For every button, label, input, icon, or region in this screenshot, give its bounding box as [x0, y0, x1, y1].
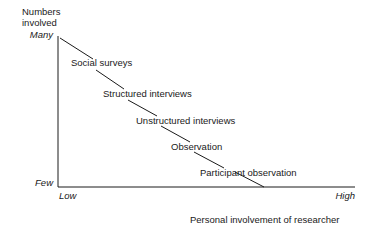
research-methods-continuum-diagram: Numbers involved Many Few Low High Perso… — [0, 0, 368, 228]
method-label-social-surveys: Social surveys — [71, 57, 132, 68]
trend-segment-3 — [128, 100, 157, 116]
method-label-observation: Observation — [171, 141, 222, 152]
plot-area — [0, 0, 368, 228]
method-label-structured-interviews: Structured interviews — [103, 88, 192, 99]
trend-segment-2 — [96, 70, 124, 89]
trend-segment-1 — [60, 38, 93, 59]
method-label-participant-observation: Participant observation — [200, 167, 297, 178]
trend-segment-4 — [161, 126, 190, 142]
method-label-unstructured-interviews: Unstructured interviews — [136, 115, 235, 126]
trend-segment-5 — [194, 152, 224, 168]
